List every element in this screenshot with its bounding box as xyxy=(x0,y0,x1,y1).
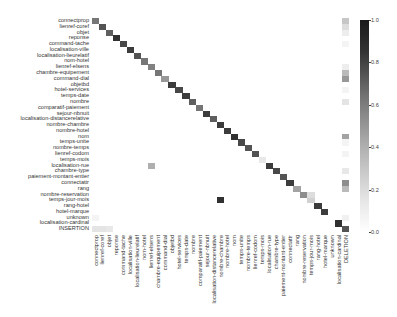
x-tick-label: DELETION xyxy=(343,235,350,263)
colorbar-tick-label: 1.0 xyxy=(371,17,379,23)
x-tick-label: rang-hotel xyxy=(315,235,322,260)
heatmap-cell xyxy=(342,226,349,232)
x-tick-label: hotel-marque xyxy=(322,235,329,268)
heatmap-cell xyxy=(321,209,328,215)
x-tick-label: localisation-cardinal xyxy=(336,235,343,284)
x-tick-label: chambre-type xyxy=(273,235,280,269)
heatmap-cell xyxy=(92,215,99,221)
x-tick-label: hotel-services xyxy=(176,235,183,270)
colorbar-tick-label: 0.6 xyxy=(371,102,379,108)
x-tick-label: rang xyxy=(294,235,301,246)
heatmap-figure: connectproplienref-corefobjetreponsecomm… xyxy=(0,0,397,317)
x-tick-label: command-dial xyxy=(162,235,169,270)
colorbar-tick-label: 0.8 xyxy=(371,59,379,65)
x-tick-label: connectattr xyxy=(287,235,294,263)
heatmap-cell xyxy=(148,163,155,169)
heatmap-cell xyxy=(342,41,349,47)
heatmap-cell xyxy=(342,87,349,93)
colorbar-tick-label: 0.0 xyxy=(371,229,379,235)
heatmap-cell xyxy=(342,76,349,82)
heatmap-cell xyxy=(342,139,349,145)
x-tick-label: comparatif-paiement xyxy=(197,235,204,286)
x-tick-label: unknown xyxy=(329,235,336,257)
heatmap-cell xyxy=(342,151,349,157)
heatmap-matrix xyxy=(92,18,349,232)
x-axis-labels: connectproplienref-corefobjetreponsecomm… xyxy=(92,235,349,315)
x-tick-label: lienref-elsens xyxy=(148,235,155,268)
x-tick-label: objetbd xyxy=(169,235,176,253)
x-tick-label: localisation-rue xyxy=(266,235,273,273)
colorbar-tick-label: 0.2 xyxy=(371,187,379,193)
x-tick-label: temps-date xyxy=(183,235,190,263)
x-tick-label: nombre-reservation xyxy=(301,235,308,284)
y-axis-labels: connectproplienref-corefobjetreponsecomm… xyxy=(0,18,89,232)
heatmap-cell xyxy=(307,192,314,198)
heatmap-cell xyxy=(342,168,349,174)
colorbar xyxy=(360,20,369,232)
x-tick-label: temps-jour-mois xyxy=(308,235,315,275)
x-tick-label: nombre xyxy=(190,235,197,254)
heatmap-cell xyxy=(342,30,349,36)
heatmap-cell xyxy=(342,186,349,192)
x-tick-label: nom-hotel xyxy=(141,235,148,260)
heatmap-cell xyxy=(217,197,224,203)
colorbar-tick-label: 0.4 xyxy=(371,144,379,150)
x-tick-label: localisation-distancerelative xyxy=(211,235,218,303)
x-tick-label: sejour-nbnuit xyxy=(204,235,211,267)
y-tick-label: INSERTION xyxy=(59,226,89,232)
x-tick-label: chambre-equipement xyxy=(155,235,162,288)
heatmap-cell xyxy=(342,99,349,105)
heatmap-cell xyxy=(106,226,113,232)
heatmap-cell xyxy=(342,215,349,221)
x-tick-label: paiement-montant-entier xyxy=(280,235,287,296)
